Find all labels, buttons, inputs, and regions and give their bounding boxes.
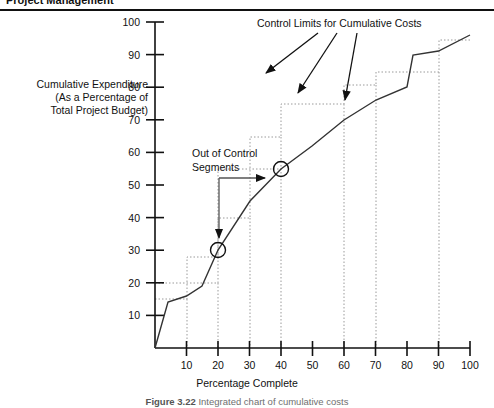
y-tick-label-80: 80 xyxy=(128,81,140,93)
control-limits-arrow-1 xyxy=(266,33,318,73)
y-tick-label-50: 50 xyxy=(128,179,140,191)
control-limits-arrow-3 xyxy=(345,33,357,100)
x-tick-label-90: 90 xyxy=(433,359,445,371)
figure-caption-text: Integrated chart of cumulative costs xyxy=(198,396,348,407)
control-limits-annotation-label: Control Limits for Cumulative Costs xyxy=(257,17,422,29)
control-limits-arrows xyxy=(266,33,357,100)
out-of-control-arrows xyxy=(219,178,265,238)
y-tick-label-10: 10 xyxy=(128,309,140,321)
x-tick-label-60: 60 xyxy=(338,359,350,371)
x-tick-label-10: 10 xyxy=(181,359,193,371)
x-tick-label-20: 20 xyxy=(212,359,224,371)
x-tick-label-70: 70 xyxy=(370,359,382,371)
cumulative-expenditure-line xyxy=(155,35,470,348)
out-of-control-annotation-line1: Out of Control xyxy=(192,147,257,159)
y-tick-label-90: 90 xyxy=(128,49,140,61)
x-tick-label-100: 100 xyxy=(461,359,479,371)
out-of-control-annotation-line2: Segments xyxy=(192,161,239,173)
y-tick-label-40: 40 xyxy=(128,212,140,224)
y-tick-label-30: 30 xyxy=(128,244,140,256)
y-tick-label-100: 100 xyxy=(122,16,140,28)
y-tick-label-70: 70 xyxy=(128,114,140,126)
x-tick-label-50: 50 xyxy=(307,359,319,371)
figure-root: Project Management Cumulative Expenditur… xyxy=(0,0,494,408)
x-tick-label-30: 30 xyxy=(244,359,256,371)
control-limit-lines xyxy=(155,40,470,348)
x-axis-tick-labels: 10 20 30 40 50 60 70 80 90 100 xyxy=(181,359,479,371)
figure-caption: Figure 3.22 Integrated chart of cumulati… xyxy=(0,396,494,408)
figure-caption-prefix: Figure 3.22 xyxy=(146,396,196,407)
x-tick-label-40: 40 xyxy=(275,359,287,371)
control-limits-arrow-2 xyxy=(298,33,337,93)
x-axis-label: Percentage Complete xyxy=(0,377,494,389)
y-tick-label-60: 60 xyxy=(128,146,140,158)
x-tick-label-80: 80 xyxy=(401,359,413,371)
y-tick-label-20: 20 xyxy=(128,277,140,289)
y-axis-tick-labels: 100 90 80 70 60 50 40 30 20 10 xyxy=(122,16,140,321)
chart-svg: 100 90 80 70 60 50 40 30 20 10 10 xyxy=(0,0,494,408)
